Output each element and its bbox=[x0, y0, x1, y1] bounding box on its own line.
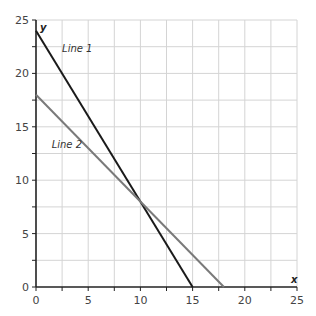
y-tick-label: 5 bbox=[22, 228, 29, 241]
x-tick-label: 0 bbox=[33, 294, 40, 307]
x-tick-label: 25 bbox=[290, 294, 304, 307]
x-tick-label: 15 bbox=[186, 294, 200, 307]
ticks: 05101520250510152025 bbox=[15, 14, 304, 307]
grid bbox=[36, 20, 297, 287]
x-axis-label: x bbox=[290, 274, 298, 285]
chart: 05101520250510152025 Line 1Line 2 x y bbox=[0, 0, 316, 316]
series-label-2: Line 2 bbox=[52, 139, 82, 150]
y-tick-label: 0 bbox=[22, 281, 29, 294]
x-tick-label: 20 bbox=[238, 294, 252, 307]
y-tick-label: 15 bbox=[15, 121, 29, 134]
series: Line 1Line 2 bbox=[36, 31, 224, 287]
series-line-2 bbox=[36, 95, 224, 287]
y-tick-label: 25 bbox=[15, 14, 29, 27]
series-label-1: Line 1 bbox=[62, 43, 92, 54]
x-tick-label: 5 bbox=[85, 294, 92, 307]
y-axis-label: y bbox=[40, 22, 47, 33]
x-tick-label: 10 bbox=[133, 294, 147, 307]
y-tick-label: 10 bbox=[15, 174, 29, 187]
y-tick-label: 20 bbox=[15, 67, 29, 80]
